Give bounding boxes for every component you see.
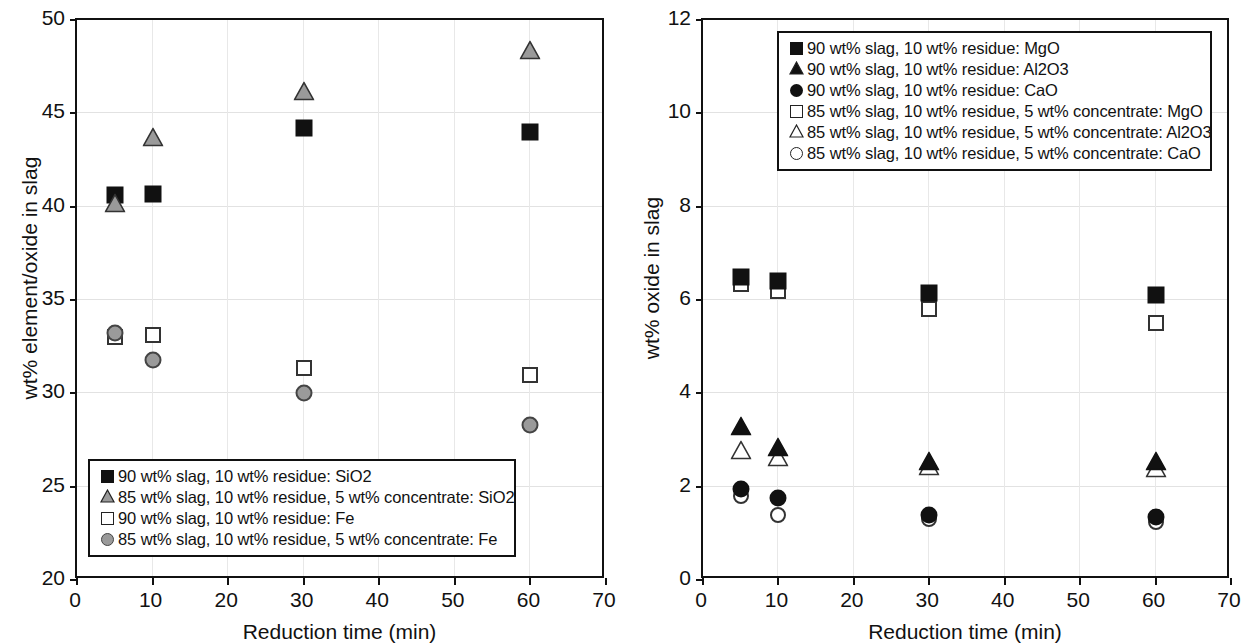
x-axis-tick: [605, 578, 607, 585]
legend-marker-icon: [785, 147, 807, 160]
y-tick-label: 40: [23, 193, 65, 217]
data-point: [921, 285, 938, 302]
x-tick-label: 20: [214, 588, 237, 612]
legend-label: 90 wt% slag, 10 wt% residue: Al2O3: [807, 60, 1069, 79]
x-axis-tick: [777, 578, 779, 585]
y-tick-label: 35: [23, 286, 65, 310]
x-axis-tick: [76, 578, 78, 585]
y-tick-label: 2: [649, 473, 691, 497]
legend-marker-icon: [785, 84, 807, 97]
x-tick-label: 50: [441, 588, 464, 612]
legend-marker-icon: [785, 42, 807, 55]
x-axis-tick: [1155, 578, 1157, 585]
y-axis-tick: [70, 112, 77, 114]
legend-item: 90 wt% slag, 10 wt% residue: Al2O3: [785, 59, 1202, 80]
data-point: [144, 351, 161, 368]
legend-marker-icon: [96, 512, 118, 525]
legend-label: 90 wt% slag, 10 wt% residue: SiO2: [118, 467, 372, 486]
data-point: [919, 452, 940, 471]
data-point: [522, 417, 539, 434]
legend-item: 90 wt% slag, 10 wt% residue: Fe: [96, 508, 506, 529]
legend-item: 90 wt% slag, 10 wt% residue: CaO: [785, 80, 1202, 101]
x-tick-label: 0: [695, 588, 707, 612]
gridline-horizontal: [77, 392, 602, 393]
legend-item: 90 wt% slag, 10 wt% residue: MgO: [785, 38, 1202, 59]
x-axis-tick: [152, 578, 154, 585]
legend-label: 85 wt% slag, 10 wt% residue, 5 wt% conce…: [807, 123, 1212, 142]
legend-item: 90 wt% slag, 10 wt% residue: SiO2: [96, 466, 506, 487]
y-tick-label: 45: [23, 99, 65, 123]
y-axis-tick: [696, 19, 703, 21]
data-point: [1148, 315, 1164, 331]
x-axis-tick: [702, 578, 704, 585]
data-point: [1147, 509, 1164, 526]
data-point: [730, 440, 751, 459]
data-point: [520, 40, 541, 59]
data-point: [921, 506, 938, 523]
data-point: [145, 327, 161, 343]
legend-item: 85 wt% slag, 10 wt% residue, 5 wt% conce…: [785, 101, 1202, 122]
legend-item: 85 wt% slag, 10 wt% residue, 5 wt% conce…: [785, 122, 1202, 143]
data-point: [522, 367, 538, 383]
x-axis-tick: [1079, 578, 1081, 585]
x-tick-label: 20: [840, 588, 863, 612]
x-axis-tick: [1004, 578, 1006, 585]
x-axis-tick: [227, 578, 229, 585]
y-axis-tick: [70, 19, 77, 21]
data-point: [770, 507, 786, 523]
x-axis-tick: [454, 578, 456, 585]
y-tick-label: 50: [23, 6, 65, 30]
data-point: [770, 490, 787, 507]
legend-label: 90 wt% slag, 10 wt% residue: Fe: [118, 509, 354, 528]
legend-marker-icon: [96, 470, 118, 483]
x-tick-label: 40: [991, 588, 1014, 612]
x-tick-label: 60: [1142, 588, 1165, 612]
legend-label: 85 wt% slag, 10 wt% residue, 5 wt% conce…: [807, 102, 1203, 121]
legend-marker-icon: [96, 489, 118, 507]
y-tick-label: 8: [649, 193, 691, 217]
right-x-axis-title: Reduction time (min): [701, 620, 1229, 644]
legend-label: 85 wt% slag, 10 wt% residue, 5 wt% conce…: [118, 488, 515, 507]
y-axis-tick: [696, 299, 703, 301]
y-tick-label: 6: [649, 286, 691, 310]
y-axis-tick: [70, 206, 77, 208]
left-x-axis-title: Reduction time (min): [75, 620, 604, 644]
x-tick-label: 60: [517, 588, 540, 612]
legend-label: 90 wt% slag, 10 wt% residue: MgO: [807, 39, 1060, 58]
data-point: [293, 81, 314, 100]
legend-label: 85 wt% slag, 10 wt% residue, 5 wt% conce…: [118, 530, 497, 549]
data-point: [768, 438, 789, 457]
x-tick-label: 30: [290, 588, 313, 612]
data-point: [522, 124, 539, 141]
legend-marker-icon: [785, 105, 807, 118]
x-tick-label: 30: [916, 588, 939, 612]
data-point: [732, 481, 749, 498]
x-tick-label: 10: [139, 588, 162, 612]
legend-item: 85 wt% slag, 10 wt% residue, 5 wt% conce…: [96, 529, 506, 550]
chart-panel-left: wt% element/oxide in slag 20253035404550…: [0, 0, 626, 640]
legend-marker-icon: [96, 533, 118, 546]
gridline-horizontal: [77, 206, 602, 207]
y-tick-label: 30: [23, 379, 65, 403]
y-axis-tick: [696, 112, 703, 114]
y-axis-tick: [70, 486, 77, 488]
left-legend: 90 wt% slag, 10 wt% residue: SiO285 wt% …: [88, 459, 516, 557]
data-point: [1147, 287, 1164, 304]
x-tick-label: 70: [592, 588, 615, 612]
gridline-horizontal: [703, 486, 1227, 487]
legend-marker-icon: [785, 124, 807, 142]
y-tick-label: 20: [23, 566, 65, 590]
y-axis-tick: [696, 206, 703, 208]
data-point: [295, 120, 312, 137]
data-point: [1145, 452, 1166, 471]
data-point: [730, 417, 751, 436]
chart-panel-right: wt% oxide in slag 024681012 010203040506…: [626, 0, 1252, 640]
y-tick-label: 12: [649, 6, 691, 30]
right-legend: 90 wt% slag, 10 wt% residue: MgO90 wt% s…: [777, 31, 1212, 171]
x-axis-tick: [853, 578, 855, 585]
x-tick-label: 40: [366, 588, 389, 612]
data-point: [296, 360, 312, 376]
y-tick-label: 4: [649, 379, 691, 403]
gridline-horizontal: [703, 392, 1227, 393]
